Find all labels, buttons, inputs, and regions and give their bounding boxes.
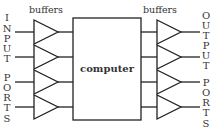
output-ports-label: O U T P U T P O R T S [202,10,210,129]
output-buffer-1 [157,20,181,44]
io-ports-diagram: buffers buffers computer I N [0,0,214,135]
left-buffers-label: buffers [29,4,63,15]
input-ports-label: I N P U T P O R T S [3,12,12,124]
output-buffer-4 [157,95,181,119]
right-buffers-label: buffers [143,4,177,15]
input-buffer-2 [34,45,58,69]
input-buffer-1 [34,20,58,44]
svg-text:I: I [5,12,9,23]
input-buffer-4 [34,95,58,119]
input-buffers [15,20,73,119]
svg-text:S: S [4,113,11,124]
output-buffers [141,20,200,119]
svg-text:S: S [203,118,210,129]
input-buffer-3 [34,70,58,94]
svg-text:T: T [4,102,11,113]
svg-text:T: T [4,53,11,64]
computer-label: computer [80,63,135,74]
svg-text:T: T [203,60,210,71]
output-buffer-2 [157,45,181,69]
svg-text:T: T [203,107,210,118]
output-buffer-3 [157,70,181,94]
